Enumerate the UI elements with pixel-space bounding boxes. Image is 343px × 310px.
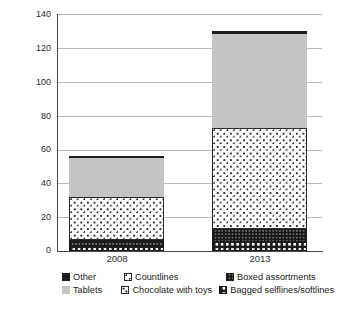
bar-2008[interactable] <box>69 156 164 251</box>
x-axis-line <box>57 251 323 252</box>
y-tick-40: 40 <box>17 179 51 188</box>
segment-2008-other[interactable] <box>69 240 164 242</box>
y-tick-0: 0 <box>17 246 51 255</box>
y-tick-20: 20 <box>17 213 51 222</box>
y-tick-80: 80 <box>17 112 51 121</box>
gridline-140 <box>57 14 322 15</box>
segment-2008-countlines[interactable] <box>69 197 164 240</box>
y-axis-title: '000 tonnes <box>0 95 1 141</box>
legend-row-1: Other Countlines Boxed assortments <box>62 272 334 282</box>
chart-legend: Other Countlines Boxed assortments Table… <box>62 272 334 298</box>
segment-2008-other-top[interactable] <box>69 156 164 158</box>
solid-gray-swatch-icon <box>62 286 70 294</box>
legend-item-boxed-assortments[interactable]: Boxed assortments <box>226 272 316 282</box>
solid-black-swatch-icon <box>62 273 70 281</box>
segment-2013-countlines[interactable] <box>212 128 307 229</box>
y-tick-140: 140 <box>17 10 51 19</box>
legend-item-bagged-selflines-softlines[interactable]: Bagged selflines/softlines <box>219 285 334 295</box>
x-tick-2013: 2013 <box>213 254 307 264</box>
segment-2013-boxed-assortments[interactable] <box>212 229 307 242</box>
legend-item-chocolate-with-toys[interactable]: Chocolate with toys <box>121 285 219 295</box>
grid-dark-swatch-icon <box>226 273 234 281</box>
legend-label-chocolate-with-toys: Chocolate with toys <box>132 285 212 295</box>
legend-item-other[interactable]: Other <box>62 272 124 282</box>
y-tick-100: 100 <box>17 78 51 87</box>
segment-2008-tablets[interactable] <box>69 158 164 197</box>
checker-swatch-icon <box>219 286 227 294</box>
legend-label-boxed-assortments: Boxed assortments <box>237 272 316 282</box>
segment-2008-boxed-assortments[interactable] <box>69 242 164 247</box>
y-tick-120: 120 <box>17 44 51 53</box>
legend-row-2: Tablets Chocolate with toys Bagged selfl… <box>62 285 334 295</box>
legend-item-countlines[interactable]: Countlines <box>124 272 226 282</box>
y-axis-line <box>57 14 58 252</box>
dotted-light-swatch-icon <box>121 286 129 294</box>
plot-area <box>57 14 322 251</box>
dotted-light-swatch-icon <box>124 273 132 281</box>
segment-2013-other[interactable] <box>212 31 307 34</box>
x-tick-2008: 2008 <box>70 254 164 264</box>
bar-2013[interactable] <box>212 31 307 251</box>
chart-figure: '000 tonnes 140 120 100 80 60 40 20 0 <box>0 0 343 310</box>
legend-item-tablets[interactable]: Tablets <box>62 285 121 295</box>
segment-2008-bagged-selflines-softlines[interactable] <box>69 247 164 251</box>
legend-label-countlines: Countlines <box>135 272 178 282</box>
legend-label-bagged-selflines-softlines: Bagged selflines/softlines <box>230 285 334 295</box>
segment-2013-bagged-selflines-softlines[interactable] <box>212 242 307 251</box>
legend-label-other: Other <box>73 272 96 282</box>
y-tick-60: 60 <box>17 145 51 154</box>
segment-2013-tablets[interactable] <box>212 34 307 128</box>
legend-label-tablets: Tablets <box>73 285 102 295</box>
